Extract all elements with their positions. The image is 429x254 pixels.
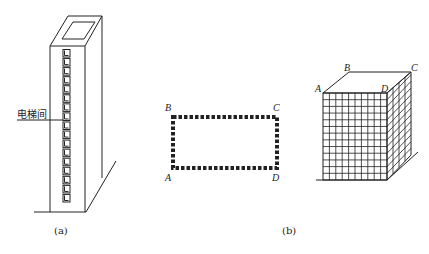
box-corner-c: C xyxy=(411,62,418,73)
caption-b: (b) xyxy=(282,225,296,236)
elevator-boxes xyxy=(63,50,70,203)
rect-corner-c: C xyxy=(273,102,280,113)
box-corner-a: A xyxy=(315,83,321,94)
box-corner-b: B xyxy=(344,62,350,73)
figure-canvas xyxy=(0,0,429,254)
rect-corner-d: D xyxy=(272,172,279,183)
rectangle-drawing xyxy=(173,117,277,168)
box-corner-d: D xyxy=(381,83,388,94)
elevator-label: 电梯间 xyxy=(17,106,47,121)
grid-box-drawing xyxy=(316,72,418,180)
rect-corner-a: A xyxy=(165,172,171,183)
caption-a: (a) xyxy=(54,225,68,236)
rect-corner-b: B xyxy=(165,102,171,113)
